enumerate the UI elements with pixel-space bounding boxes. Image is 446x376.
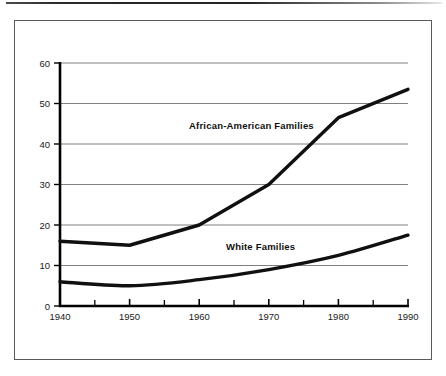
x-tick-label-1970: 1970 <box>258 311 279 322</box>
x-tick-label-1960: 1960 <box>189 311 210 322</box>
series-line-african-american-families <box>60 89 408 245</box>
x-tick-label-1990: 1990 <box>397 311 418 322</box>
y-axis-tick-labels: 60 50 40 30 20 10 0 <box>39 58 50 312</box>
x-axis-tick-labels: 1940 1950 1960 1970 1980 1990 <box>49 311 418 322</box>
x-axis <box>59 299 409 306</box>
chart-page: 60 50 40 30 20 10 0 1940 1950 1960 <box>0 0 446 376</box>
y-tick-label-50: 50 <box>39 98 50 109</box>
x-tick-label-1940: 1940 <box>49 311 70 322</box>
gridlines <box>60 63 408 266</box>
y-tick-label-10: 10 <box>39 260 50 271</box>
y-tick-label-60: 60 <box>39 58 50 69</box>
x-tick-label-1950: 1950 <box>119 311 140 322</box>
series-annotation-african-american-families: African-American Families <box>189 120 314 131</box>
y-axis <box>54 62 60 307</box>
line-chart: 60 50 40 30 20 10 0 1940 1950 1960 <box>0 0 446 376</box>
series-annotation-white-families: White Families <box>226 241 295 252</box>
x-tick-label-1980: 1980 <box>328 311 349 322</box>
y-tick-label-0: 0 <box>45 301 50 312</box>
y-tick-label-20: 20 <box>39 220 50 231</box>
y-tick-label-30: 30 <box>39 179 50 190</box>
y-tick-label-40: 40 <box>39 139 50 150</box>
